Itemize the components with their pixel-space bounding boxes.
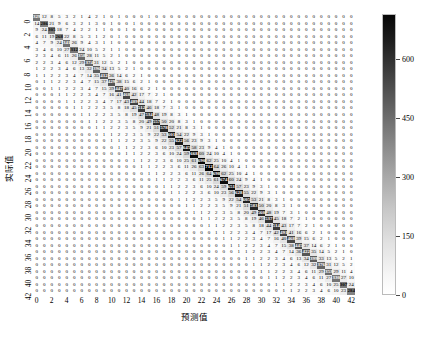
matrix-cell-value: 0 [175,282,182,289]
matrix-cell: 0 [175,282,182,289]
matrix-cell-value: 3 [302,282,309,289]
matrix-cell: 0 [273,288,280,295]
matrix-cell: 2 [295,282,302,289]
x-tick-label: 0 [35,296,39,305]
matrix-cell: 307 [340,282,347,289]
matrix-cell-value: 0 [85,282,92,289]
matrix-cell: 0 [190,282,197,289]
matrix-cell-value: 284 [347,288,355,295]
matrix-cell: 0 [183,288,190,295]
matrix-cell: 23 [340,288,347,295]
matrix-cell: 0 [168,282,175,289]
x-tick-label: 18 [168,296,176,305]
matrix-cell-value: 0 [265,282,272,289]
x-axis-ticks: 024681012141618202224262830323436384042 [33,296,355,309]
colorbar-tick [396,295,400,296]
matrix-cell: 0 [243,282,250,289]
x-tick-label: 22 [198,296,206,305]
matrix-cell-value: 0 [145,288,152,295]
matrix-cell-value: 2 [295,288,302,295]
matrix-cell: 0 [153,288,160,295]
matrix-cell: 0 [85,288,92,295]
matrix-cell: 0 [228,282,235,289]
x-tick-label: 10 [108,296,116,305]
matrix-cell: 0 [93,288,100,295]
matrix-cell-value: 0 [160,288,167,295]
matrix-cell-value: 0 [205,288,212,295]
matrix-cell: 0 [138,282,145,289]
matrix-cell-value: 23 [340,288,347,295]
matrix-cell: 1 [273,282,280,289]
matrix-cell: 0 [250,288,257,295]
matrix-cell: 0 [213,282,220,289]
matrix-cell-value: 0 [235,282,242,289]
matrix-cell-value: 0 [123,288,130,295]
matrix-cell: 0 [243,288,250,295]
matrix-cell: 0 [160,288,167,295]
matrix-cell: 0 [100,288,107,295]
matrix-cell-value: 0 [93,288,100,295]
matrix-cell-value: 0 [183,288,190,295]
matrix-cell-value: 0 [228,282,235,289]
x-tick-label: 36 [303,296,311,305]
matrix-cell: 2 [295,288,302,295]
matrix-cell: 0 [108,288,115,295]
matrix-cell-value: 1 [280,288,287,295]
matrix-cell: 0 [40,282,47,289]
x-tick-label: 16 [153,296,161,305]
matrix-cell-value: 0 [175,288,182,295]
matrix-cell: 10 [325,282,332,289]
matrix-cell: 1 [280,282,287,289]
matrix-cell: 0 [48,288,55,295]
matrix-cell: 0 [220,288,227,295]
matrix-cell-value: 0 [265,288,272,295]
x-tick-label: 28 [243,296,251,305]
matrix-cell-value: 1 [287,288,294,295]
matrix-cell-value: 0 [130,282,137,289]
x-tick-label: 2 [50,296,54,305]
matrix-cell-value: 0 [198,282,205,289]
matrix-cell-value: 0 [138,282,145,289]
matrix-cell-value: 0 [190,282,197,289]
matrix-cell-value: 0 [115,288,122,295]
matrix-cell-value: 0 [228,288,235,295]
matrix-cell-value: 0 [93,282,100,289]
matrix-cell: 0 [93,282,100,289]
matrix-cell-value: 0 [198,288,205,295]
matrix-cell: 1 [287,288,294,295]
x-axis-label: 预测值 [33,310,355,322]
matrix-cell-value: 0 [33,282,40,289]
matrix-cell: 0 [198,282,205,289]
matrix-cell-value: 0 [243,282,250,289]
matrix-cell-value: 0 [115,282,122,289]
colorbar: 0150300450600 [382,14,396,295]
colorbar-tick-label: 450 [402,114,414,123]
matrix-cell-value: 0 [220,288,227,295]
colorbar-tick-label: 300 [402,173,414,182]
matrix-cell-value: 0 [160,282,167,289]
matrix-cell-value: 0 [235,288,242,295]
matrix-cell: 3 [302,282,309,289]
matrix-cell-value: 0 [213,288,220,295]
matrix-cell: 1 [280,288,287,295]
x-tick-label: 6 [80,296,84,305]
y-axis-ticks: 024681012141618202224262830323436384042 [14,14,33,295]
matrix-cell-value: 10 [325,282,332,289]
matrix-cell-value: 0 [40,288,47,295]
x-tick-label: 14 [138,296,146,305]
matrix-cell-value: 0 [40,282,47,289]
x-tick-label: 32 [273,296,281,305]
matrix-cell-value: 0 [78,282,85,289]
matrix-cell-value: 0 [273,288,280,295]
matrix-cell: 25 [332,282,339,289]
matrix-cell-value: 307 [340,282,347,289]
matrix-cell-value: 0 [258,282,265,289]
matrix-cell-value: 2 [287,282,294,289]
matrix-cell: 0 [235,282,242,289]
matrix-cell-value: 0 [205,282,212,289]
matrix-cell: 284 [347,288,355,295]
x-tick-label: 42 [348,296,356,305]
x-tick-label: 30 [258,296,266,305]
matrix-cell: 0 [78,288,85,295]
matrix-cell: 0 [213,288,220,295]
